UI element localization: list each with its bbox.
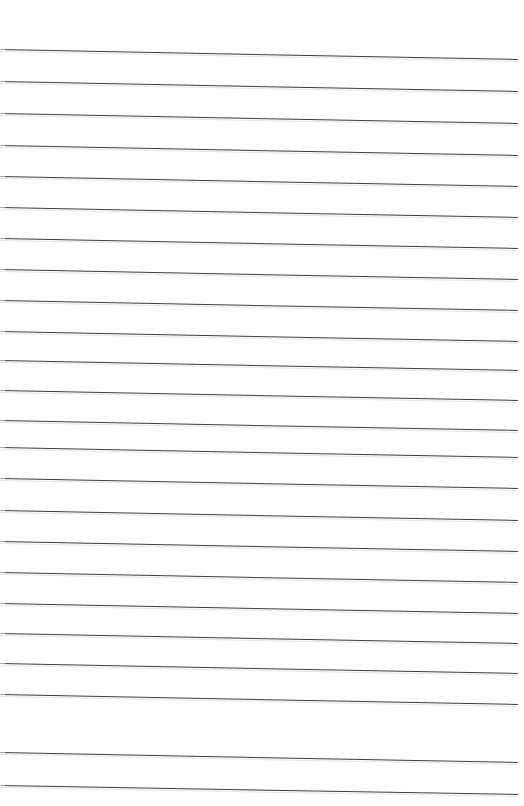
scanned-page	[0, 0, 524, 806]
right-edge-margin	[518, 0, 524, 806]
paper-background	[0, 0, 524, 806]
